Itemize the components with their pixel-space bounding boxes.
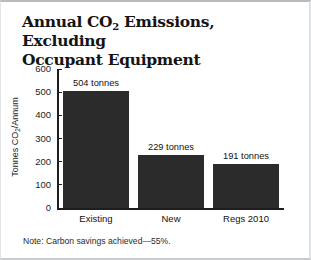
y-axis-tick	[57, 208, 62, 209]
y-axis-label-subscript: 2	[14, 128, 21, 132]
y-axis-tick	[57, 138, 62, 139]
chart-note: Note: Carbon savings achieved—55%.	[23, 236, 171, 246]
bar-value-label: 504 tonnes	[43, 78, 149, 88]
y-axis-tick-label: 0	[1, 202, 51, 213]
y-axis-tick-label: 100	[1, 179, 51, 190]
plot-area: Tonnes CO2/Annum 0100200300400500600 504…	[1, 2, 311, 260]
chart-card: Annual CO2 Emissions, ExcludingOccupant …	[0, 0, 311, 260]
y-axis-tick	[57, 69, 62, 70]
bar	[138, 155, 204, 208]
y-axis-tick-label: 400	[1, 109, 51, 120]
y-axis-tick-label: 600	[1, 63, 51, 74]
y-axis-tick-label: 200	[1, 156, 51, 167]
y-axis-tick	[57, 92, 62, 93]
y-axis-line	[57, 69, 59, 210]
x-axis-tick-label: Regs 2010	[193, 213, 299, 224]
y-axis-tick	[57, 161, 62, 162]
bar	[213, 164, 279, 208]
y-axis-tick	[57, 115, 62, 116]
bar-value-label: 191 tonnes	[193, 151, 299, 161]
y-axis-tick-label: 300	[1, 133, 51, 144]
x-axis-line	[57, 208, 284, 210]
y-axis-tick	[57, 184, 62, 185]
